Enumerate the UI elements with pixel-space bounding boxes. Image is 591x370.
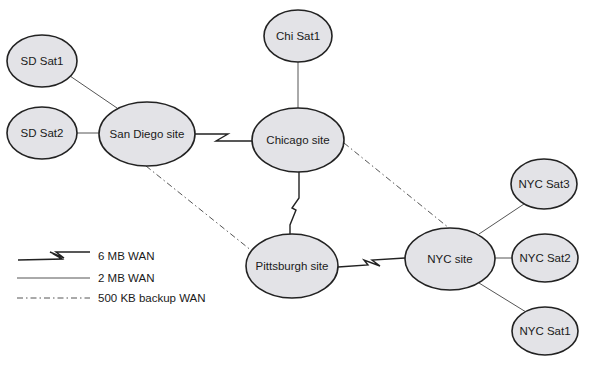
link-nycsat3-nyc [479,204,524,234]
link-chicago-pittsburgh [290,172,299,234]
link-nycsat1-nyc [479,283,526,312]
node-label: NYC Sat3 [518,178,569,190]
nodes: SD Sat1 SD Sat2 San Diego site Chi Sat1 … [7,10,578,355]
node-sd-sat2: SD Sat2 [7,107,77,159]
legend-item-6mb: 6 MB WAN [18,250,154,262]
node-sd-sat1: SD Sat1 [7,35,77,87]
node-label: San Diego site [110,128,185,140]
node-san-diego-site: San Diego site [99,102,195,166]
node-label: Chi Sat1 [276,30,320,42]
node-label: NYC Sat1 [519,325,570,337]
link-chicago-nyc [344,143,449,228]
node-chicago-site: Chicago site [252,108,344,172]
node-nyc-sat1: NYC Sat1 [512,307,578,355]
legend: 6 MB WAN 2 MB WAN 500 KB backup WAN [17,250,206,304]
node-nyc-site: NYC site [405,228,495,290]
legend-item-2mb: 2 MB WAN [17,272,154,284]
link-sandiego-chicago [195,134,252,141]
node-label: Pittsburgh site [256,260,329,272]
lightning-line-icon [18,252,90,260]
legend-label: 2 MB WAN [98,272,154,284]
node-pittsburgh-site: Pittsburgh site [246,234,338,298]
link-pittsburgh-nyc [338,258,405,267]
node-nyc-sat3: NYC Sat3 [511,159,577,209]
node-label: Chicago site [266,134,329,146]
diagram-svg: SD Sat1 SD Sat2 San Diego site Chi Sat1 … [0,0,591,370]
node-label: NYC site [427,253,472,265]
link-sandiego-pittsburgh [146,166,252,251]
link-sdsat1-sandiego [70,76,117,108]
network-diagram: SD Sat1 SD Sat2 San Diego site Chi Sat1 … [0,0,591,370]
node-nyc-sat2: NYC Sat2 [512,234,578,282]
legend-label: 6 MB WAN [98,250,154,262]
node-label: SD Sat2 [21,127,64,139]
legend-item-backup: 500 KB backup WAN [17,292,206,304]
node-chi-sat1: Chi Sat1 [264,10,332,62]
node-label: SD Sat1 [21,55,64,67]
node-label: NYC Sat2 [519,252,570,264]
legend-label: 500 KB backup WAN [98,292,206,304]
